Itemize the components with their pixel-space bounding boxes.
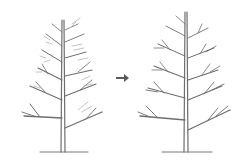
after-tree — [138, 12, 230, 152]
illustration-canvas — [0, 0, 250, 167]
pruning-illustration: Before pruning After pruning — [0, 0, 250, 167]
arrow-right-icon — [116, 74, 129, 82]
